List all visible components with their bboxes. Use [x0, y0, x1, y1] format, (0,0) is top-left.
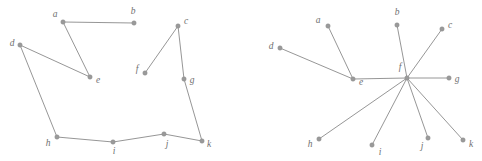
- graph-edge-a-e: [63, 22, 90, 77]
- path-graph-labels: abcdefghijk: [10, 6, 212, 156]
- graph-node-c[interactable]: [440, 27, 444, 31]
- nodes-layer: [18, 20, 465, 147]
- graph-edge-j-k: [164, 134, 202, 141]
- edges-layer: [20, 22, 463, 145]
- graph-node-label-i: i: [113, 146, 116, 156]
- graph-node-e[interactable]: [88, 75, 92, 79]
- graph-edge-c-f: [145, 26, 178, 73]
- graph-node-f[interactable]: [405, 76, 409, 80]
- graph-figure: abcdefghijkabcdefghijk: [0, 0, 482, 161]
- graph-node-k[interactable]: [200, 139, 204, 143]
- graph-node-label-h: h: [308, 139, 313, 149]
- graph-node-label-e: e: [96, 75, 100, 85]
- graph-node-label-b: b: [395, 7, 400, 17]
- graph-node-label-c: c: [184, 16, 189, 26]
- graph-edge-g-k: [184, 79, 202, 141]
- graph-node-label-i: i: [379, 147, 382, 157]
- graph-node-label-d: d: [10, 38, 15, 48]
- graph-node-h[interactable]: [55, 135, 59, 139]
- graph-node-j[interactable]: [426, 136, 430, 140]
- graph-node-a[interactable]: [61, 20, 65, 24]
- graph-node-e[interactable]: [351, 77, 355, 81]
- graph-node-label-j: j: [164, 139, 169, 149]
- graph-node-label-g: g: [190, 75, 195, 85]
- graph-edge-i-j: [113, 134, 164, 142]
- graph-edge-h-i: [57, 137, 113, 142]
- graph-node-d[interactable]: [278, 46, 282, 50]
- graph-node-label-k: k: [469, 139, 474, 149]
- path-graph-edges: [20, 22, 202, 142]
- graph-node-b[interactable]: [132, 21, 136, 25]
- graph-node-d[interactable]: [18, 43, 22, 47]
- graph-node-i[interactable]: [370, 143, 374, 147]
- graph-edge-f-j: [407, 78, 428, 138]
- graph-edge-f-k: [407, 78, 463, 140]
- path-graph-nodes: [18, 20, 204, 144]
- graph-node-k[interactable]: [461, 138, 465, 142]
- figure-canvas: abcdefghijkabcdefghijk: [0, 0, 482, 161]
- graph-node-i[interactable]: [111, 140, 115, 144]
- graph-node-label-g: g: [455, 74, 460, 84]
- labels-layer: abcdefghijkabcdefghijk: [10, 6, 474, 157]
- graph-node-g[interactable]: [447, 76, 451, 80]
- graph-node-label-d: d: [269, 41, 274, 51]
- graph-node-label-k: k: [207, 139, 212, 149]
- graph-node-f[interactable]: [143, 71, 147, 75]
- graph-node-label-f: f: [399, 62, 403, 72]
- graph-node-label-j: j: [419, 141, 424, 151]
- graph-node-g[interactable]: [182, 77, 186, 81]
- graph-node-label-c: c: [448, 20, 453, 30]
- graph-edge-c-g: [178, 26, 184, 79]
- graph-edge-d-h: [20, 45, 57, 137]
- graph-edge-d-e: [280, 48, 353, 79]
- graph-edge-a-e: [328, 26, 353, 79]
- graph-node-label-a: a: [316, 15, 321, 25]
- graph-node-a[interactable]: [326, 24, 330, 28]
- graph-node-label-h: h: [46, 138, 51, 148]
- graph-edge-f-i: [372, 78, 407, 145]
- graph-node-label-f: f: [136, 64, 140, 74]
- star-graph-nodes: [278, 23, 465, 147]
- graph-node-label-a: a: [53, 9, 58, 19]
- graph-node-j[interactable]: [162, 132, 166, 136]
- graph-node-b[interactable]: [395, 23, 399, 27]
- graph-node-h[interactable]: [317, 137, 321, 141]
- graph-edge-a-b: [63, 22, 134, 23]
- graph-edge-f-c: [407, 29, 442, 78]
- graph-node-c[interactable]: [176, 24, 180, 28]
- graph-node-label-b: b: [131, 6, 136, 16]
- star-graph-edges: [280, 25, 463, 145]
- graph-node-label-e: e: [359, 77, 363, 87]
